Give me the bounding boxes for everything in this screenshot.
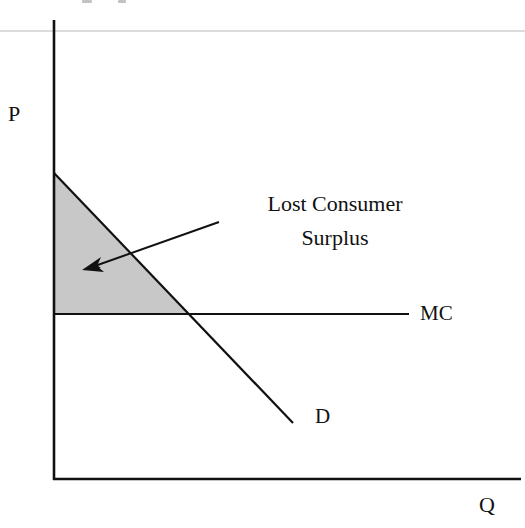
mc-label: MC: [420, 301, 453, 325]
lost-consumer-surplus-diagram: P Q MC D Lost Consumer Surplus: [0, 0, 525, 528]
annotation-line-1: Lost Consumer: [267, 191, 403, 216]
demand-label: D: [315, 404, 330, 428]
y-axis-label: P: [8, 101, 20, 126]
annotation-line-2: Surplus: [301, 225, 368, 250]
x-axis-label: Q: [479, 492, 495, 517]
